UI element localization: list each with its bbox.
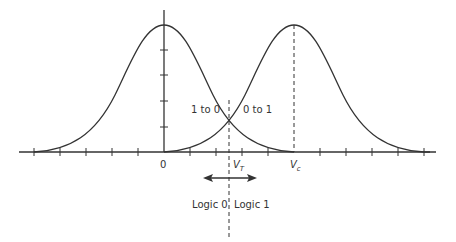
vc-label: Vc [290,159,301,173]
one-to-zero-label: 1 to 0 [191,104,220,115]
logic-0-label: Logic 0 [192,199,228,210]
vt-label: VT [233,159,244,173]
logic-1-label: Logic 1 [234,199,270,210]
zero-to-one-label: 0 to 1 [243,104,272,115]
origin-label: 0 [160,159,166,170]
distribution-diagram [0,0,456,242]
double-arrow-icon [203,174,257,182]
logic-1-curve [164,25,430,152]
